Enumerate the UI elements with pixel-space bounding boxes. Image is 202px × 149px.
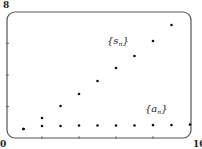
series-a-label-close: } (161, 103, 167, 114)
plot-frame (7, 12, 191, 138)
data-point (22, 128, 25, 131)
series-a-label-main: {a (145, 103, 157, 114)
data-point (170, 24, 173, 27)
series-a-label: {an} (145, 103, 168, 115)
x-max-label: 10 (193, 139, 202, 149)
data-point (170, 124, 173, 127)
data-point (152, 40, 155, 43)
y-max-label: 8 (3, 0, 9, 10)
data-point (133, 55, 136, 58)
data-point (152, 124, 155, 127)
series-s-label-main: {s (107, 35, 119, 46)
series-s-label-close: } (122, 35, 128, 46)
origin-label: 0 (0, 139, 6, 149)
data-point (189, 123, 192, 126)
data-point (96, 80, 99, 83)
series-s-points (22, 24, 173, 131)
data-point (96, 124, 99, 127)
data-point (78, 93, 81, 96)
scatter-chart: 8 0 10 {sn} {an} (0, 0, 202, 149)
series-a-points (22, 123, 191, 130)
data-point (41, 117, 44, 120)
data-point (78, 124, 81, 127)
data-point (115, 67, 118, 70)
data-point (59, 125, 62, 128)
series-s-label: {sn} (107, 35, 129, 47)
data-point (41, 125, 44, 128)
data-point (133, 124, 136, 127)
data-point (115, 124, 118, 127)
data-point (59, 105, 62, 108)
